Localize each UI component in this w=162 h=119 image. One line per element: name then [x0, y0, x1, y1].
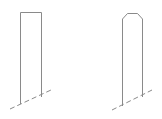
ground-line-left	[10, 90, 51, 109]
diagram-canvas	[0, 0, 162, 119]
chamfered-top-post	[112, 14, 152, 111]
flat-top-post-outline	[21, 13, 42, 105]
ground-line-right	[112, 90, 152, 110]
chamfered-top-post-outline	[123, 14, 143, 107]
flat-top-post	[10, 13, 51, 110]
